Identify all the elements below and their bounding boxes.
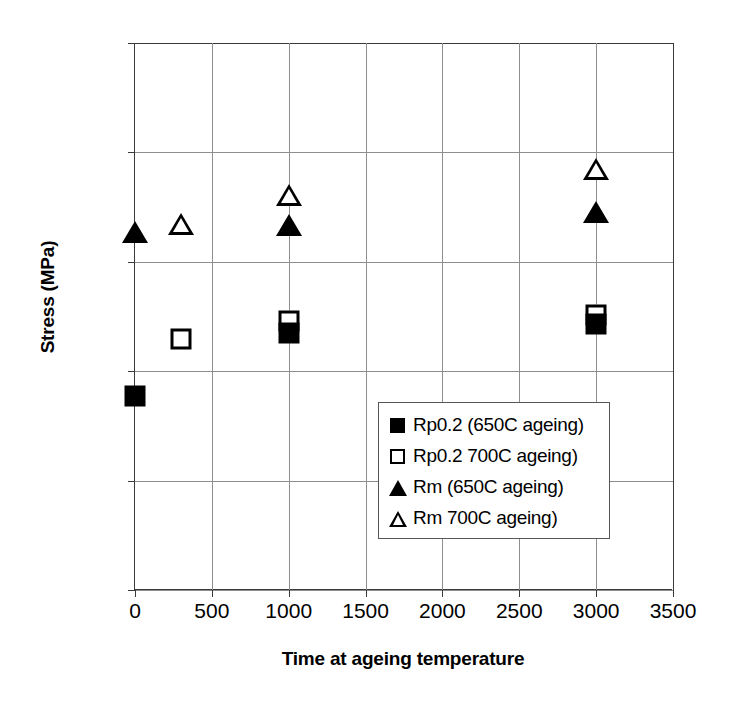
x-tick xyxy=(442,590,443,597)
legend-marker-shape xyxy=(390,418,405,433)
data-point-marker xyxy=(583,158,609,180)
y-tick xyxy=(128,371,135,372)
x-tick xyxy=(135,590,136,597)
x-tick-label-text: 1500 xyxy=(342,599,389,623)
gridline-horizontal xyxy=(135,43,673,44)
legend-marker-icon xyxy=(387,445,409,467)
x-tick-label-text: 2000 xyxy=(419,599,466,623)
chart-legend: Rp0.2 (650C ageing)Rp0.2 700C ageing)Rm … xyxy=(378,402,610,539)
gridline-horizontal xyxy=(135,152,673,153)
legend-marker-shape xyxy=(390,449,405,464)
x-tick-label-text: 0 xyxy=(129,599,141,623)
x-tick-label-text: 3000 xyxy=(573,599,620,623)
chart-figure: Stress (MPa) Time at ageing temperature … xyxy=(0,0,733,713)
x-tick xyxy=(212,590,213,597)
y-tick xyxy=(128,481,135,482)
y-axis-title: Stress (MPa) xyxy=(37,197,59,397)
gridline-horizontal xyxy=(135,590,673,591)
legend-item: Rm 700C ageing) xyxy=(379,502,609,533)
data-point-marker xyxy=(276,184,302,206)
x-tick-label-text: 1000 xyxy=(265,599,312,623)
x-tick-label-text: 2500 xyxy=(496,599,543,623)
data-point-marker xyxy=(168,212,194,234)
data-point-marker xyxy=(586,313,607,334)
y-tick xyxy=(128,43,135,44)
x-tick xyxy=(596,590,597,597)
legend-item-label: Rm (650C ageing) xyxy=(413,476,563,498)
data-point-marker xyxy=(125,385,146,406)
legend-marker-shape xyxy=(389,480,407,496)
data-point-marker xyxy=(122,221,148,243)
x-tick-label-text: 500 xyxy=(194,599,229,623)
legend-marker-icon xyxy=(387,414,409,436)
y-tick xyxy=(128,590,135,591)
legend-marker-icon xyxy=(387,507,409,529)
data-point-marker xyxy=(171,329,192,350)
legend-item: Rp0.2 (650C ageing) xyxy=(379,409,609,440)
legend-item-label: Rm 700C ageing) xyxy=(413,507,557,529)
gridline-vertical xyxy=(212,43,213,590)
legend-item: Rm (650C ageing) xyxy=(379,471,609,502)
x-tick-label-text: 3500 xyxy=(650,599,697,623)
x-tick xyxy=(519,590,520,597)
x-tick xyxy=(366,590,367,597)
data-point-marker xyxy=(278,322,299,343)
legend-marker-icon xyxy=(387,476,409,498)
data-point-marker xyxy=(583,200,609,222)
y-tick xyxy=(128,152,135,153)
y-tick xyxy=(128,262,135,263)
x-tick xyxy=(289,590,290,597)
gridline-horizontal xyxy=(135,371,673,372)
legend-item-label: Rp0.2 (650C ageing) xyxy=(413,414,584,436)
x-tick xyxy=(673,590,674,597)
gridline-vertical xyxy=(673,43,674,590)
gridline-vertical xyxy=(366,43,367,590)
legend-marker-shape xyxy=(389,511,407,527)
legend-item-label: Rp0.2 700C ageing) xyxy=(413,445,578,467)
data-point-marker xyxy=(276,214,302,236)
gridline-horizontal xyxy=(135,262,673,263)
x-axis-title: Time at ageing temperature xyxy=(134,648,672,670)
legend-item: Rp0.2 700C ageing) xyxy=(379,440,609,471)
